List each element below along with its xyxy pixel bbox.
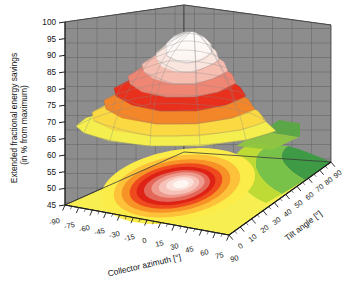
z-tick-label: 95 <box>47 35 57 44</box>
x-tick-label: -90 <box>48 216 61 227</box>
x-tick-label: 75 <box>214 250 224 261</box>
z-tick-label: 80 <box>47 85 57 94</box>
y-tick-label: 90 <box>332 168 344 180</box>
x-tick-label: 60 <box>199 247 209 258</box>
x-tick-label: -30 <box>108 229 121 240</box>
x-tick-label: 0 <box>141 236 147 246</box>
z-tick-label: 55 <box>47 168 57 177</box>
x-tick-label: -75 <box>63 220 76 231</box>
z-tick-label: 90 <box>47 51 57 60</box>
z-tick-label: 75 <box>47 101 57 110</box>
y-tick-label: 50 <box>293 198 305 210</box>
z-axis-ticklabels: 100 95 90 85 80 75 70 65 60 55 50 45 <box>42 18 56 210</box>
surface-plot-svg: 100 95 90 85 80 75 70 65 60 55 50 45 <box>0 0 346 295</box>
z-tick-label: 85 <box>47 68 57 77</box>
y-tick-label: 60 <box>304 190 316 202</box>
y-tick-label: 20 <box>259 223 271 235</box>
x-tick-label: 30 <box>169 241 179 252</box>
figure-root: 100 95 90 85 80 75 70 65 60 55 50 45 <box>0 0 346 295</box>
y-tick-label: 30 <box>271 215 283 227</box>
z-axis-label-line1: Extended fractional energy savings <box>9 53 19 183</box>
z-tick-label: 65 <box>47 135 57 144</box>
x-axis-label: Collector azimuth [°] <box>107 252 182 279</box>
y-tick-label: 80 <box>323 175 335 187</box>
y-tick-label: 70 <box>314 182 326 194</box>
z-axis-ticks <box>59 22 65 206</box>
x-tick-label: 90 <box>229 253 239 264</box>
z-axis-label-line2: (in % from maximum) <box>19 85 29 165</box>
y-tick-label: 40 <box>282 207 294 219</box>
z-tick-label: 60 <box>47 151 57 160</box>
x-tick-label: -60 <box>78 223 91 234</box>
x-tick-label: -45 <box>93 226 106 237</box>
x-tick-label: -15 <box>123 232 136 243</box>
x-tick-label: 15 <box>154 238 164 249</box>
y-tick-label: 0 <box>236 241 245 251</box>
z-tick-label: 100 <box>42 18 56 27</box>
z-tick-label: 70 <box>47 118 57 127</box>
z-tick-label: 50 <box>47 184 57 193</box>
z-tick-label: 45 <box>47 201 57 210</box>
y-tick-label: 10 <box>247 232 259 244</box>
x-tick-label: 45 <box>184 244 194 255</box>
